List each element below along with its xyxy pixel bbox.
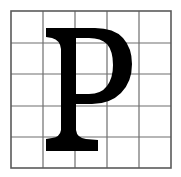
image-canvas: P	[0, 0, 181, 177]
gridded-glyph-figure: P	[0, 0, 181, 177]
